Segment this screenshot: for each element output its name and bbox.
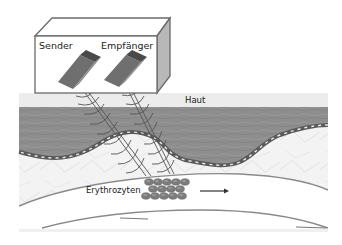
erythrocyte bbox=[172, 179, 181, 186]
skin-surface bbox=[19, 93, 328, 107]
device-box bbox=[35, 18, 170, 93]
erythrocyte bbox=[149, 186, 158, 193]
erythrocyte bbox=[176, 186, 185, 193]
label-erythrocytes: Erythrozyten bbox=[86, 185, 141, 195]
doppler-diagram: Sender Empfänger Haut Erythrozyten bbox=[0, 0, 342, 245]
erythrocyte bbox=[169, 193, 178, 200]
label-receiver: Empfänger bbox=[101, 40, 153, 51]
label-skin: Haut bbox=[185, 95, 206, 105]
label-sender: Sender bbox=[39, 40, 73, 51]
erythrocyte bbox=[154, 179, 163, 186]
erythrocyte bbox=[142, 193, 151, 200]
erythrocyte bbox=[151, 193, 160, 200]
erythrocyte bbox=[145, 179, 154, 186]
erythrocyte bbox=[160, 193, 169, 200]
erythrocyte bbox=[163, 179, 172, 186]
erythrocyte bbox=[178, 193, 187, 200]
erythrocyte bbox=[158, 186, 167, 193]
erythrocyte bbox=[181, 179, 190, 186]
erythrocytes bbox=[142, 179, 190, 200]
erythrocyte bbox=[167, 186, 176, 193]
